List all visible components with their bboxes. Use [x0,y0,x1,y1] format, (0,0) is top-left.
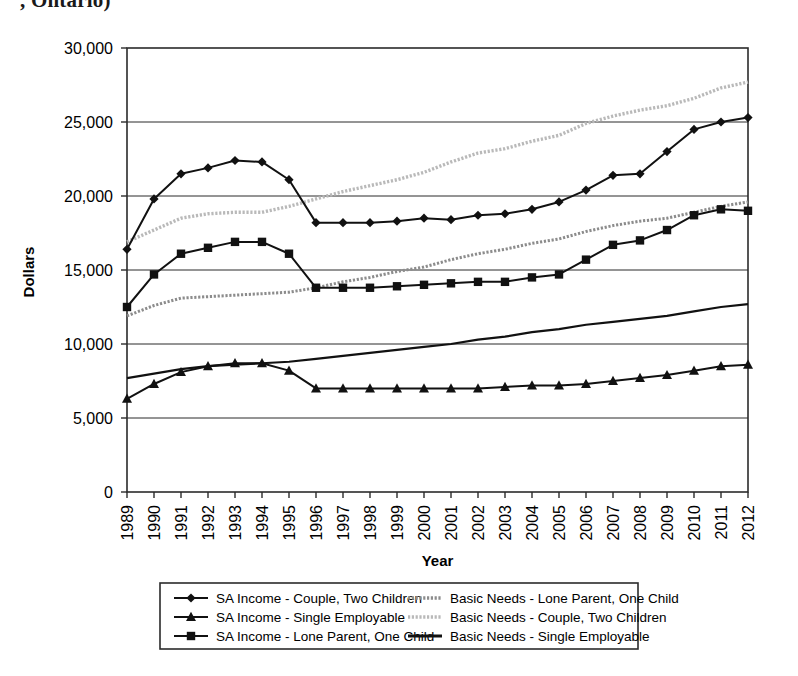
chart-container: 05,00010,00015,00020,00025,00030,000Doll… [0,0,798,676]
x-tick-label: 2006 [578,505,595,541]
data-point-marker [554,197,563,206]
data-point-marker [338,218,347,227]
data-point-marker [122,245,131,254]
data-point-marker [365,218,374,227]
data-point-marker [500,209,509,218]
y-tick-label: 25,000 [64,114,113,131]
data-point-marker [311,218,320,227]
data-point-marker [555,270,563,278]
data-point-marker [150,270,158,278]
series-sa-income-lone-parent-one-child [123,205,752,311]
x-tick-label: 2000 [416,505,433,541]
series-line [127,118,748,250]
legend-label: SA Income - Couple, Two Children [216,591,422,606]
x-tick-label: 1991 [173,505,190,541]
x-tick-label: 1992 [200,505,217,541]
y-tick-label: 30,000 [64,40,113,57]
legend-label: SA Income - Lone Parent, One Child [216,629,434,644]
data-point-marker [419,214,428,223]
x-tick-label: 2007 [605,505,622,541]
data-point-marker [187,632,195,640]
data-point-marker [608,171,617,180]
data-point-marker [609,241,617,249]
x-tick-label: 2008 [632,505,649,541]
legend-item[interactable]: Basic Needs - Lone Parent, One Child [408,591,679,606]
data-point-marker [123,303,131,311]
legend-item[interactable]: SA Income - Couple, Two Children [174,591,422,606]
x-tick-label: 1995 [281,505,298,541]
x-tick-label: 1989 [119,505,136,541]
legend-item[interactable]: Basic Needs - Couple, Two Children [408,610,667,625]
data-point-marker [393,282,401,290]
y-tick-label: 0 [104,484,113,501]
legend-item[interactable]: SA Income - Single Employable [174,610,405,625]
x-tick-label: 2011 [713,505,730,540]
x-axis-title: Year [422,552,454,569]
line-chart: 05,00010,00015,00020,00025,00030,000Doll… [0,0,798,676]
x-tick-label: 2010 [686,505,703,541]
y-axis-title: Dollars [20,247,37,298]
x-tick-label: 1993 [227,505,244,541]
data-point-marker [717,205,725,213]
data-point-marker [392,217,401,226]
data-point-marker [230,156,239,165]
y-gridlines [127,122,748,418]
x-tick-label: 1999 [389,505,406,541]
x-tick-label: 2009 [659,505,676,541]
y-axis: 05,00010,00015,00020,00025,00030,000Doll… [20,40,127,501]
data-point-marker [473,211,482,220]
x-tick-label: 2001 [443,505,460,541]
x-tick-label: 1997 [335,505,352,541]
data-point-marker [716,117,725,126]
series-line [127,209,748,307]
x-tick-label: 2002 [470,505,487,541]
x-tick-label: 1994 [254,505,271,541]
data-point-marker [231,238,239,246]
data-point-marker [743,113,752,122]
data-point-marker [447,279,455,287]
x-tick-label: 1990 [146,505,163,541]
y-tick-label: 5,000 [73,410,113,427]
legend-label: Basic Needs - Single Employable [450,629,650,644]
data-point-marker [258,238,266,246]
y-tick-label: 10,000 [64,336,113,353]
data-point-marker [285,250,293,258]
data-point-marker [312,284,320,292]
data-point-marker [636,236,644,244]
data-point-marker [528,273,536,281]
legend-label: SA Income - Single Employable [216,610,405,625]
data-point-marker [582,255,590,263]
x-tick-label: 2005 [551,505,568,541]
legend-label: Basic Needs - Couple, Two Children [450,610,667,625]
data-point-marker [186,593,195,602]
legend-label: Basic Needs - Lone Parent, One Child [450,591,679,606]
y-tick-label: 20,000 [64,188,113,205]
x-tick-label: 1998 [362,505,379,541]
series-line [127,363,748,399]
data-point-marker [581,185,590,194]
x-axis: 1989199019911992199319941995199619971998… [119,492,757,569]
data-point-marker [203,163,212,172]
series-basic-needs-single-employable [127,304,748,378]
x-tick-label: 2012 [740,505,757,541]
series-line [127,304,748,378]
data-point-marker [204,244,212,252]
series-sa-income-single-employable [122,358,753,403]
x-tick-label: 2004 [524,505,541,541]
data-point-marker [177,250,185,258]
data-point-marker [366,284,374,292]
x-tick-label: 2003 [497,505,514,541]
data-point-marker [339,284,347,292]
legend-item[interactable]: Basic Needs - Single Employable [408,629,650,644]
data-point-marker [420,281,428,289]
data-point-marker [446,215,455,224]
y-tick-label: 15,000 [64,262,113,279]
x-tick-label: 1996 [308,505,325,541]
data-point-marker [663,226,671,234]
data-point-marker [690,211,698,219]
data-point-marker [501,278,509,286]
legend-item[interactable]: SA Income - Lone Parent, One Child [174,629,434,644]
data-point-marker [122,394,132,403]
data-point-marker [744,207,752,215]
data-point-marker [527,205,536,214]
